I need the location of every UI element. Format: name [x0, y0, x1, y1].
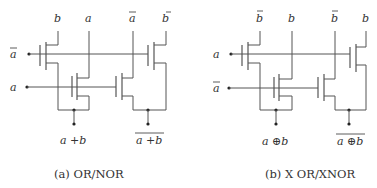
rail-label-b-bar: b	[256, 12, 263, 25]
rail-label-b: b	[362, 12, 369, 25]
transistor-t4	[148, 31, 166, 110]
transmission-gate-diagram: b a a b a a	[0, 0, 377, 188]
output-node	[72, 122, 75, 125]
transistor-t2	[274, 31, 292, 110]
circuit-or-nor: b a a b a a	[10, 12, 171, 181]
transistor-t4	[350, 31, 366, 110]
output-label-xnor: a ⊕b	[337, 135, 363, 148]
rail-label-a-bar: a	[129, 12, 136, 25]
input-label-a-bar: a	[213, 82, 220, 95]
output-label-xor: a ⊕b	[262, 135, 288, 148]
transistor-t3	[116, 31, 133, 110]
caption-or-nor: (a) OR/NOR	[54, 167, 124, 181]
rail-label-b: b	[54, 12, 61, 25]
output-node	[347, 122, 350, 125]
transistor-t1	[40, 31, 58, 110]
output-node	[274, 122, 277, 125]
output-node	[146, 122, 149, 125]
output-label-nor: a +b	[136, 134, 162, 147]
transistor-t2	[72, 31, 89, 110]
transistor-t1	[242, 31, 260, 110]
caption-xor-xnor: (b) X OR/XNOR	[265, 167, 355, 181]
circuit-xor-xnor: b b b b a a	[213, 11, 369, 181]
rail-label-a: a	[85, 12, 92, 25]
input-label-a-bar: a	[10, 48, 17, 61]
rail-label-b-bar: b	[162, 12, 169, 25]
rail-label-b: b	[288, 12, 295, 25]
rail-label-b-bar: b	[331, 12, 338, 25]
input-label-a: a	[213, 48, 220, 61]
transistor-t3	[318, 31, 335, 110]
input-label-a: a	[10, 81, 17, 94]
output-label-or: a +b	[60, 134, 86, 147]
